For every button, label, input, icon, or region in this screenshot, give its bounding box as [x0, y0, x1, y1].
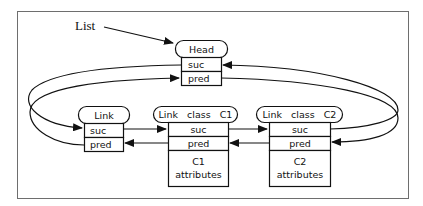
list-label: List	[75, 18, 96, 33]
head-suc-label: suc	[188, 59, 204, 70]
link-node: Link suc pred	[79, 107, 130, 152]
c2-body-line1: C2	[294, 156, 307, 167]
c1-body-line1: C1	[192, 156, 205, 167]
head-node: Head suc pred	[176, 41, 228, 86]
c1-suc-label: suc	[190, 124, 206, 135]
head-pred-label: pred	[188, 73, 210, 84]
c2-node: Link class C2 suc pred C2 attributes	[257, 107, 343, 187]
c1-pred-label: pred	[188, 138, 210, 149]
link-suc-label: suc	[90, 125, 106, 136]
link-title: Link	[94, 110, 114, 121]
c1-title: Link class C1	[159, 109, 233, 120]
c2-body-line2: attributes	[277, 169, 323, 180]
c1-body-line2: attributes	[175, 169, 221, 180]
c2-title: Link class C2	[263, 109, 337, 120]
linked-list-diagram: List Head suc pred Link suc pred Link cl…	[0, 0, 423, 206]
c2-suc-label: suc	[292, 124, 308, 135]
link-pred-label: pred	[90, 139, 112, 150]
c2-pred-label: pred	[289, 138, 311, 149]
head-title: Head	[189, 44, 214, 55]
